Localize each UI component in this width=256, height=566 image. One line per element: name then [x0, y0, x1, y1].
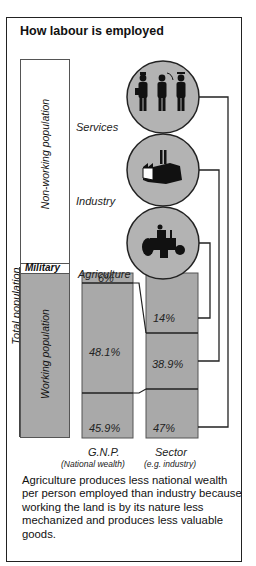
sector-bar — [146, 273, 198, 438]
gnp-value-industry: 48.1% — [89, 346, 120, 358]
gnp-value-agriculture: 6% — [98, 272, 114, 284]
sector-column-label: Sector — [155, 446, 187, 458]
sector-column-sublabel: (e.g. industry) — [144, 459, 196, 469]
sector-value-industry: 38.9% — [152, 358, 183, 370]
gnp-column-label: G.N.P. — [88, 446, 120, 458]
figure-caption: Agriculture produces less national wealt… — [22, 474, 242, 541]
sector-value-agriculture: 14% — [153, 312, 175, 324]
link-industry — [133, 389, 146, 393]
sector-label-services: Services — [76, 121, 118, 133]
link-agriculture — [133, 283, 146, 333]
gnp-value-services: 45.9% — [89, 422, 120, 434]
connector-services — [198, 97, 228, 427]
connector-industry — [198, 170, 219, 361]
sector-value-services: 47% — [153, 422, 175, 434]
sector-label-industry: Industry — [76, 195, 115, 207]
gnp-column-sublabel: (National wealth) — [61, 459, 125, 469]
connector-agriculture — [198, 243, 210, 318]
